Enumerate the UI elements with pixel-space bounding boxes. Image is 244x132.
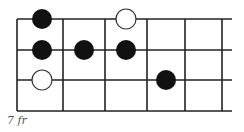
open-note-dot [32, 70, 52, 90]
filled-note-dot [32, 9, 52, 29]
string-lines [17, 19, 232, 111]
fretboard-diagram [0, 0, 244, 132]
fret-lines [17, 19, 222, 111]
filled-note-dot [32, 40, 52, 60]
filled-note-dot [156, 70, 176, 90]
open-note-dot [116, 9, 136, 29]
fret-position-label: 7 fr [7, 114, 27, 127]
filled-note-dot [116, 40, 136, 60]
filled-note-dot [74, 40, 94, 60]
